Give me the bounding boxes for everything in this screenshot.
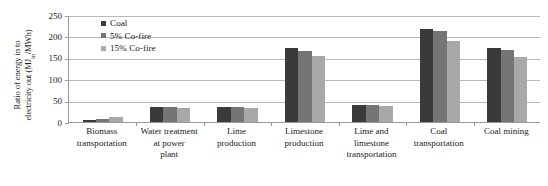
- bar: [514, 57, 527, 122]
- bar: [163, 107, 176, 122]
- y-tick-label: 250: [32, 12, 62, 21]
- bar-group: [352, 16, 392, 122]
- y-axis-title-line1: Ratio of energy in to: [12, 41, 23, 110]
- bar-chart: Ratio of energy in to electricity out (M…: [0, 0, 548, 186]
- legend-label: 15% Co-fire: [110, 42, 156, 55]
- x-axis-label-line: plant: [127, 149, 211, 161]
- y-tick-label: 150: [32, 54, 62, 63]
- legend-entry[interactable]: Coal: [101, 17, 156, 30]
- bar: [150, 107, 163, 122]
- legend-entry[interactable]: 15% Co-fire: [101, 42, 156, 55]
- bar: [83, 120, 96, 122]
- legend: Coal5% Co-fire15% Co-fire: [101, 17, 156, 55]
- legend-label: Coal: [110, 17, 127, 30]
- x-axis-label-line: Coal mining: [464, 126, 548, 138]
- x-axis-label-line: transportation: [330, 149, 414, 161]
- bar: [231, 107, 244, 122]
- bar-group: [420, 16, 460, 122]
- bar: [366, 105, 379, 122]
- y-tick-label: 100: [32, 76, 62, 85]
- y-tickmark: [65, 123, 69, 124]
- legend-swatch-icon: [101, 33, 106, 38]
- bar: [109, 117, 122, 122]
- legend-entry[interactable]: 5% Co-fire: [101, 30, 156, 43]
- bar: [501, 50, 514, 122]
- y-tick-label: 0: [32, 119, 62, 128]
- bar: [447, 41, 460, 122]
- bar: [177, 108, 190, 122]
- bar: [433, 31, 446, 122]
- y-tick-labels: 250200150100500: [30, 0, 62, 186]
- bar: [244, 108, 257, 122]
- y-tick-label: 200: [32, 33, 62, 42]
- bar-group: [487, 16, 527, 122]
- bar-group: [217, 16, 257, 122]
- bar: [298, 51, 311, 122]
- bar: [420, 29, 433, 122]
- bar-group: [150, 16, 190, 122]
- bar: [312, 56, 325, 122]
- bar: [96, 119, 109, 122]
- x-axis-label: Coal mining: [464, 126, 548, 138]
- y-tick-label: 50: [32, 97, 62, 106]
- bar: [285, 48, 298, 122]
- x-axis-labels: BiomasstransportationWater treatmentat p…: [68, 126, 540, 186]
- bar: [487, 48, 500, 122]
- legend-swatch-icon: [101, 21, 106, 26]
- legend-label: 5% Co-fire: [110, 30, 151, 43]
- bar-group: [285, 16, 325, 122]
- legend-swatch-icon: [101, 46, 106, 51]
- bar: [379, 106, 392, 122]
- bar: [352, 105, 365, 122]
- x-axis-label-line: transportation: [397, 138, 481, 150]
- bar: [217, 107, 230, 122]
